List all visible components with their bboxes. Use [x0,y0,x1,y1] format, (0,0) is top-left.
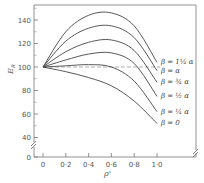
curve-0 [43,12,157,67]
curves [43,12,157,123]
x-axis-title: ρ' [103,169,111,178]
x-tick-label: 0 [41,161,45,169]
y-tick-label: 120 [18,40,31,48]
y-tick-label: 40 [22,134,31,142]
curve-label: β = ¼ α [160,108,189,116]
curve-label: β = α [160,67,180,75]
x-axis-ticks: 00·20·40·60·81·0 [41,153,163,169]
svg-text:R: R [10,64,16,69]
curve-label: β = ½ α [160,92,189,100]
curve-label: β = 0 [160,119,180,127]
x-tick-label: 0·6 [106,161,118,169]
y-axis-title: E R [6,64,16,75]
curve-label: β = ¾ α [160,78,189,86]
svg-text:E: E [6,68,15,75]
y-axis-ticks: 0406080100120140 [18,8,38,161]
curve-4 [43,65,157,112]
curve-2 [43,39,157,82]
curve-3 [43,52,157,96]
y-tick-label: 0 [27,154,31,162]
y-tick-label: 100 [18,64,31,72]
chart: 0406080100120140 00·20·40·60·81·0 β = 1¼… [0,0,204,183]
x-tick-label: 0·2 [60,161,71,169]
x-tick-label: 0·8 [129,161,140,169]
x-tick-label: 1·0 [151,161,162,169]
y-tick-label: 80 [22,87,31,95]
curve-1 [43,25,157,70]
curve-label: β = 1¼ α [160,58,194,66]
curve-labels: β = 1¼ αβ = αβ = ¾ αβ = ½ αβ = ¼ αβ = 0 [160,58,194,127]
y-tick-label: 60 [22,111,31,119]
y-tick-label: 140 [18,17,31,25]
x-tick-label: 0·4 [83,161,95,169]
axis-break-marks [31,141,198,157]
curve-5 [43,67,157,123]
